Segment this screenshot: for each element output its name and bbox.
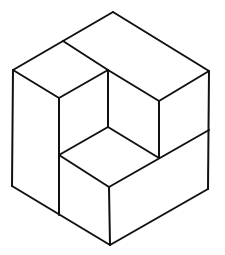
edge-left-cube-front-left [13,70,59,98]
edge-bottom-left [12,186,110,245]
edge-top-right [113,12,209,71]
edge-step-back-right [108,127,159,158]
edge-left-cube-back [63,41,108,70]
edge-left-cube-front-right [59,70,108,98]
edge-bottom-right [110,189,208,245]
edge-step-front-left [59,155,109,187]
edge-slab-front [159,71,209,101]
edge-step-back-left [59,127,108,155]
edge-slab-inner [108,70,159,101]
edge-front-vertical [109,187,110,245]
isometric-block-drawing [0,0,225,255]
edge-left-outer [12,70,13,186]
